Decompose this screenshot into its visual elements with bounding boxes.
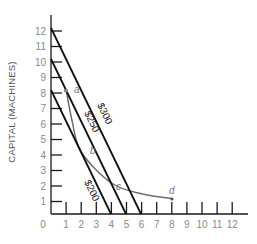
x-tick-label: 1: [63, 219, 69, 230]
point-d-marker: [170, 197, 173, 200]
x-tick-label: 11: [212, 219, 223, 230]
x-tick-label: 3: [94, 219, 100, 230]
y-tick-label: 11: [36, 41, 47, 52]
x-tick-label: 0: [40, 219, 46, 230]
y-tick-label: 8: [40, 88, 46, 99]
label-200: $200: [82, 178, 102, 203]
x-tick-label: 5: [124, 219, 130, 230]
point-b-label: b: [90, 145, 96, 156]
point-d-label: d: [169, 185, 175, 196]
y-tick-label: 1: [40, 196, 46, 207]
y-tick-label: 4: [40, 150, 46, 161]
y-tick-label: 10: [35, 57, 47, 68]
isocost-isoquant-chart: CAPITAL (MACHINES) 123456789101112 01234…: [0, 0, 257, 244]
x-tick-label: 7: [154, 219, 160, 230]
y-axis-title: CAPITAL (MACHINES): [6, 61, 17, 162]
x-tick-label: 6: [139, 219, 145, 230]
y-axis-ticks: 123456789101112: [35, 26, 62, 208]
point-a-marker: [64, 89, 68, 92]
point-a-label: a: [74, 84, 80, 95]
x-axis-ticks: 0123456789101112: [40, 202, 238, 230]
y-tick-label: 3: [40, 165, 46, 176]
y-tick-label: 6: [40, 119, 46, 130]
y-tick-label: 12: [35, 26, 47, 37]
x-tick-label: 10: [196, 219, 208, 230]
y-tick-label: 7: [40, 103, 46, 114]
point-c-label: c: [116, 181, 121, 192]
x-tick-label: 2: [78, 219, 84, 230]
x-tick-label: 9: [184, 219, 190, 230]
x-tick-label: 4: [109, 219, 115, 230]
y-tick-label: 9: [40, 72, 46, 83]
y-tick-label: 5: [40, 134, 46, 145]
x-tick-label: 8: [169, 219, 175, 230]
x-tick-label: 12: [227, 219, 239, 230]
y-tick-label: 2: [40, 181, 46, 192]
